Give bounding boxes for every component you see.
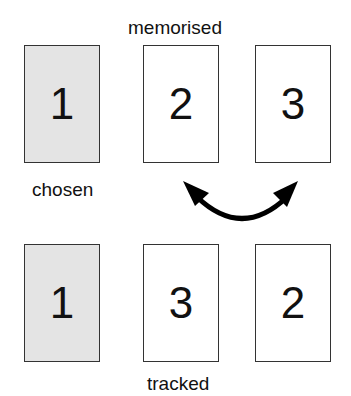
bottom-card-2: 3: [143, 244, 219, 362]
bottom-card-3: 2: [255, 244, 331, 362]
card-number: 1: [50, 278, 74, 328]
card-number: 3: [169, 278, 193, 328]
card-number: 2: [281, 278, 305, 328]
bottom-card-1: 1: [24, 244, 100, 362]
tracked-label: tracked: [147, 374, 209, 394]
